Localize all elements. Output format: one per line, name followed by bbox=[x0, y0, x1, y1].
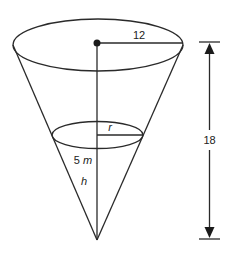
height-dimension: 18 bbox=[199, 42, 220, 239]
water-depth-label: 5 m bbox=[74, 154, 92, 166]
center-point-dot bbox=[94, 40, 101, 47]
arrow-up-icon bbox=[205, 43, 215, 54]
water-height-label: h bbox=[81, 175, 87, 187]
cone-right-side bbox=[97, 45, 183, 240]
cone-diagram: 12 r 5 m h 18 bbox=[0, 0, 228, 253]
cone-left-side bbox=[13, 45, 97, 240]
top-radius-label: 12 bbox=[133, 29, 145, 41]
water-depth-unit: m bbox=[83, 154, 92, 166]
arrow-down-icon bbox=[205, 227, 215, 238]
height-label: 18 bbox=[203, 134, 215, 146]
